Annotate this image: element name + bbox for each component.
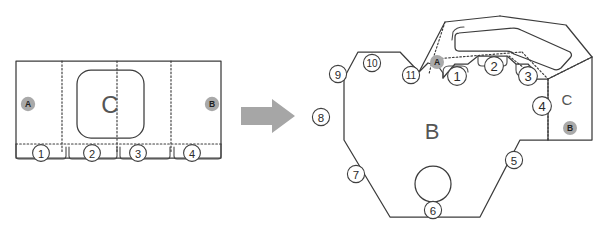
callout-label: 1 — [38, 148, 44, 160]
region-label-c-folded: C — [562, 91, 573, 108]
callout-label: 4 — [189, 148, 195, 160]
transformation-arrow — [241, 99, 295, 133]
arrow-shape — [241, 99, 295, 133]
marker-a-label: A — [25, 99, 31, 109]
callout-label: 2 — [89, 148, 95, 160]
marker-b-folded: B — [563, 121, 577, 135]
marker-b-label: B — [209, 99, 215, 109]
region-label-c-flat: C — [101, 91, 118, 118]
callout-3-flat: 3 — [130, 145, 147, 162]
callout-label: 5 — [511, 155, 517, 167]
callout-label: 6 — [430, 205, 436, 217]
figure-canvas: C A B 1 2 3 4 — [0, 0, 606, 231]
callout-4-flat: 4 — [184, 145, 201, 162]
circular-hole — [415, 166, 451, 202]
body-b-outline — [344, 52, 548, 217]
marker-a-folded: A — [430, 55, 444, 69]
callout-1-folded: 1 — [448, 67, 467, 86]
callout-2-folded: 2 — [485, 57, 504, 76]
callout-label: 3 — [135, 148, 141, 160]
flat-blank-panel: C A B 1 2 3 4 — [16, 61, 221, 161]
callout-2-flat: 2 — [84, 145, 101, 162]
callout-label: 11 — [406, 70, 417, 81]
technical-figure: C A B 1 2 3 4 — [0, 0, 606, 231]
marker-a-label: A — [434, 57, 440, 67]
marker-b-label: B — [567, 123, 573, 133]
callout-7-folded: 7 — [347, 165, 364, 182]
callout-label: 2 — [490, 59, 497, 74]
upper-flap-top-ridge — [500, 16, 592, 57]
callout-8-folded: 8 — [312, 108, 329, 125]
callout-label: 10 — [366, 58, 378, 69]
callout-11-folded: 11 — [402, 66, 419, 83]
callout-6-folded: 6 — [424, 201, 441, 218]
callout-3-folded: 3 — [519, 67, 538, 86]
callout-10-folded: 10 — [363, 54, 380, 71]
callout-9-folded: 9 — [329, 65, 346, 82]
callout-label: 9 — [335, 69, 341, 81]
callout-5-folded: 5 — [505, 151, 522, 168]
region-label-b: B — [425, 119, 440, 144]
callout-1-flat: 1 — [33, 145, 50, 162]
marker-a-flat: A — [21, 97, 35, 111]
callout-label: 3 — [524, 69, 531, 84]
callout-label: 7 — [353, 169, 359, 181]
hook-loop-cutout — [455, 28, 572, 70]
folded-assembly: B C A B 1 2 3 4 — [312, 16, 592, 219]
callout-label: 4 — [538, 99, 545, 114]
callout-label: 1 — [453, 69, 460, 84]
marker-b-flat: B — [205, 97, 219, 111]
callout-4-folded: 4 — [533, 97, 552, 116]
callout-label: 8 — [318, 112, 324, 124]
